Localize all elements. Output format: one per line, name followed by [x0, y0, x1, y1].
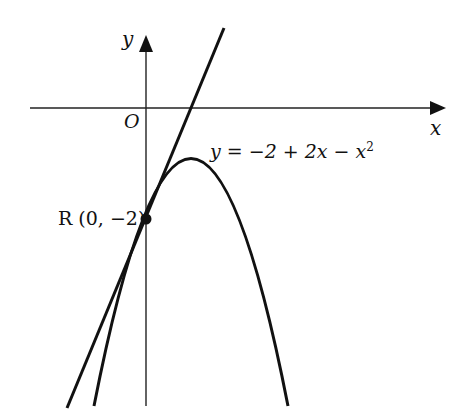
point-r-label: R (0, −2) [58, 207, 145, 229]
origin-label: O [124, 110, 140, 132]
y-axis-label: y [122, 27, 133, 51]
parabola-curve [94, 159, 288, 407]
x-axis-label: x [430, 116, 441, 140]
x-axis-arrow-icon [430, 101, 446, 115]
curve-equation-label: y = −2 + 2x − x2 [210, 140, 374, 162]
y-axis-arrow-icon [139, 35, 153, 52]
diagram-canvas: y x O y = −2 + 2x − x2 R (0, −2) [0, 0, 464, 420]
curve-equation-exponent: 2 [366, 140, 374, 154]
curve-equation-text: y = −2 + 2x − x [210, 140, 366, 162]
